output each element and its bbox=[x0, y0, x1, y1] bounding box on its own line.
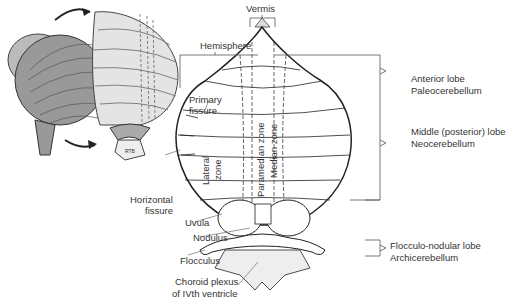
label-archicerebellum: Archicerebellum bbox=[390, 252, 458, 263]
label-hemisphere: Hemisphere bbox=[200, 40, 251, 51]
label-middle-lobe: Middle (posterior) lobe bbox=[411, 126, 506, 137]
label-paleocerebellum: Paleocerebellum bbox=[411, 85, 482, 96]
label-vermis: Vermis bbox=[246, 3, 275, 14]
label-paramedian-zone: Paramedian zone bbox=[255, 123, 266, 197]
label-uvula: Uvula bbox=[185, 217, 209, 228]
label-horizontal-fissure-2: fissure bbox=[145, 205, 173, 216]
label-horizontal-fissure-1: Horizontal bbox=[130, 194, 173, 205]
label-flocculo-nodular-lobe: Flocculo-nodular lobe bbox=[390, 240, 481, 251]
inset-illustration: RTB bbox=[8, 8, 178, 160]
inset-signature: RTB bbox=[125, 148, 136, 154]
label-primary-fissure-2: fissure bbox=[189, 105, 217, 116]
label-anterior-lobe: Anterior lobe bbox=[411, 73, 465, 84]
label-median-zone: Median zone bbox=[268, 124, 279, 178]
label-neocerebellum: Neocerebellum bbox=[411, 138, 475, 149]
label-choroid-plexus-1: Choroid plexus bbox=[175, 276, 238, 287]
label-lateral-zone-1: Lateral bbox=[200, 156, 211, 185]
label-nodulus: Nodulus bbox=[193, 232, 228, 243]
label-flocculus: Flocculus bbox=[180, 255, 220, 266]
label-primary-fissure-1: Primary bbox=[189, 94, 222, 105]
label-lateral-zone-2: zone bbox=[212, 159, 223, 180]
label-choroid-plexus-2: of IVth ventricle bbox=[172, 288, 237, 299]
